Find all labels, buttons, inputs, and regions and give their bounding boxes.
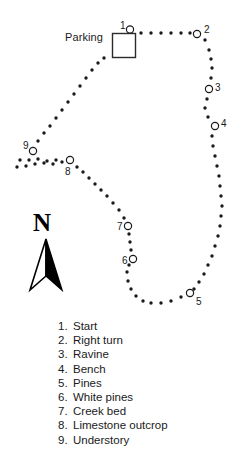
trail-marker-6[interactable] xyxy=(129,255,136,262)
trail-dot xyxy=(203,38,206,41)
north-arrow-icon xyxy=(30,239,62,290)
legend-item-label: Right turn xyxy=(73,334,123,346)
trail-dot xyxy=(159,301,162,304)
trail-dot xyxy=(75,165,78,168)
marker-number-8: 8 xyxy=(65,167,71,177)
trail-marker-5[interactable] xyxy=(186,289,193,296)
trail-marker-3[interactable] xyxy=(205,85,212,92)
trail-dot xyxy=(215,164,218,167)
marker-number-1: 1 xyxy=(120,21,126,31)
legend-item: 5.Pines xyxy=(58,376,243,390)
trail-dot xyxy=(51,162,54,165)
trail-dot xyxy=(217,174,220,177)
legend-item-label: Creek bed xyxy=(73,405,126,417)
trail-dot xyxy=(36,139,39,142)
trail-dot xyxy=(203,106,206,109)
trail-dot xyxy=(111,201,114,204)
trail-dot xyxy=(129,248,132,251)
trail-dot xyxy=(149,31,152,34)
legend-item-label: Understory xyxy=(73,434,129,446)
trail-dot xyxy=(18,158,21,161)
legend-item: 1.Start xyxy=(58,319,243,333)
trail-dot xyxy=(72,92,75,95)
legend-list: 1.Start2.Right turn3.Ravine4.Bench5.Pine… xyxy=(58,319,243,447)
legend-item-number: 6. xyxy=(58,390,73,404)
trail-marker-2[interactable] xyxy=(193,30,200,37)
trail-dot xyxy=(125,270,128,273)
trail-dot xyxy=(48,124,51,127)
trail-dot xyxy=(93,182,96,185)
trail-dot xyxy=(209,57,212,60)
parking-label: Parking xyxy=(65,31,103,43)
trail-dot xyxy=(90,68,93,71)
trail-dot xyxy=(169,299,172,302)
trail-dot xyxy=(149,301,152,304)
trail-marker-7[interactable] xyxy=(124,222,131,229)
trail-dot xyxy=(60,108,63,111)
legend-item-label: Limestone outcrop xyxy=(73,419,168,431)
legend-item-number: 5. xyxy=(58,376,73,390)
marker-number-4: 4 xyxy=(221,119,227,129)
marker-number-6: 6 xyxy=(122,256,128,266)
trail-dot xyxy=(96,61,99,64)
legend-item: 6.White pines xyxy=(58,390,243,404)
trail-dot xyxy=(197,280,200,283)
legend-item: 4.Bench xyxy=(58,362,243,376)
trail-dot xyxy=(179,295,182,298)
trail-dot xyxy=(210,66,213,69)
trail-marker-4[interactable] xyxy=(211,122,218,129)
trail-dot xyxy=(87,176,90,179)
trail-dot xyxy=(216,234,219,237)
trail-dot xyxy=(24,164,27,167)
legend-item: 8.Limestone outcrop xyxy=(58,418,243,432)
trail-dot xyxy=(210,134,213,137)
trail-dot xyxy=(169,31,172,34)
trail-marker-1[interactable] xyxy=(126,26,133,33)
trail-dot xyxy=(139,31,142,34)
trail-dot xyxy=(54,158,57,161)
trail-dot xyxy=(66,100,69,103)
marker-number-2: 2 xyxy=(204,25,210,35)
trail-dot xyxy=(129,287,132,290)
trail-dot xyxy=(42,131,45,134)
legend-item: 7.Creek bed xyxy=(58,404,243,418)
legend-item-number: 3. xyxy=(58,347,73,361)
trail-dot xyxy=(78,84,81,87)
legend-item-number: 8. xyxy=(58,418,73,432)
trail-marker-9[interactable] xyxy=(29,147,36,154)
trail-dot xyxy=(206,115,209,118)
trail-dot xyxy=(202,272,205,275)
legend-item-label: White pines xyxy=(73,391,133,403)
legend: 1.Start2.Right turn3.Ravine4.Bench5.Pine… xyxy=(58,319,243,447)
trail-dot xyxy=(219,194,222,197)
trail-dot xyxy=(60,160,63,163)
trail-dot xyxy=(45,159,48,162)
trail-dot xyxy=(218,184,221,187)
trail-dot xyxy=(105,194,108,197)
legend-item-number: 1. xyxy=(58,319,73,333)
trail-dot xyxy=(159,31,162,34)
parking-lot-rect xyxy=(113,34,136,58)
trail-dot xyxy=(210,254,213,257)
trail-dot xyxy=(179,31,182,34)
legend-item-number: 7. xyxy=(58,404,73,418)
trail-dot xyxy=(81,170,84,173)
trail-dot xyxy=(27,158,30,161)
trail-marker-8[interactable] xyxy=(66,156,73,163)
legend-item: 2.Right turn xyxy=(58,333,243,347)
trail-dot xyxy=(211,144,214,147)
trail-dot xyxy=(84,76,87,79)
legend-item-number: 2. xyxy=(58,333,73,347)
legend-item-label: Bench xyxy=(73,363,106,375)
trail-dot xyxy=(205,97,208,100)
trail-dot xyxy=(36,157,39,160)
trail-dot xyxy=(134,294,137,297)
marker-number-7: 7 xyxy=(117,222,123,232)
trail-dot xyxy=(220,204,223,207)
trail-dot xyxy=(117,208,120,211)
trail-dot xyxy=(206,263,209,266)
trail-dot xyxy=(42,161,45,164)
legend-item: 3.Ravine xyxy=(58,347,243,361)
trail-dot xyxy=(33,162,36,165)
legend-item: 9.Understory xyxy=(58,433,243,447)
